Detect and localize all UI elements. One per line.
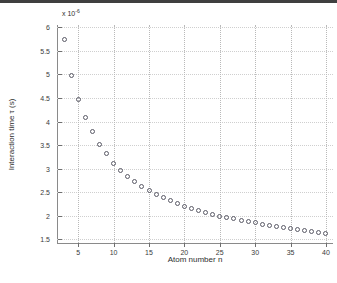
data-point	[196, 208, 201, 213]
x-axis-tick	[114, 243, 115, 247]
data-point	[69, 73, 74, 78]
data-point	[274, 224, 279, 229]
y-axis-tick-label: 6	[46, 24, 50, 31]
x-axis-tick	[326, 243, 327, 247]
y-axis-line	[57, 25, 58, 243]
data-point	[189, 206, 194, 211]
data-point	[239, 218, 244, 223]
x-axis-title: Atom number n	[57, 255, 333, 264]
gridline-horizontal	[57, 98, 333, 99]
gridline-vertical	[184, 25, 185, 243]
x-axis-tick	[149, 243, 150, 247]
gridline-vertical	[220, 25, 221, 243]
data-point	[288, 226, 293, 231]
gridline-vertical	[291, 25, 292, 243]
data-point	[139, 184, 144, 189]
y-axis-tick	[58, 216, 62, 217]
data-point	[224, 215, 229, 220]
data-point	[217, 214, 222, 219]
y-axis-title: Interaction time τ (s)	[6, 25, 18, 243]
data-point	[97, 142, 102, 147]
data-point	[316, 230, 321, 235]
data-point	[111, 161, 116, 166]
y-axis-tick-label: 4	[46, 118, 50, 125]
figure-canvas: x 10-6 5101520253035401.522.533.544.555.…	[0, 0, 337, 283]
gridline-vertical	[114, 25, 115, 243]
data-point	[210, 212, 215, 217]
data-point	[76, 97, 81, 102]
y-axis-tick	[58, 192, 62, 193]
gridline-horizontal	[57, 169, 333, 170]
data-point	[302, 228, 307, 233]
y-axis-exponent-label: x 10-6	[62, 8, 80, 17]
data-point	[154, 192, 159, 197]
y-axis-tick-label: 3.5	[40, 142, 50, 149]
gridline-horizontal	[57, 74, 333, 75]
data-point	[175, 201, 180, 206]
data-point	[323, 231, 328, 236]
gridline-horizontal	[57, 27, 333, 28]
data-point	[267, 223, 272, 228]
gridline-horizontal	[57, 216, 333, 217]
y-axis-tick	[58, 51, 62, 52]
data-point	[253, 220, 258, 225]
data-point	[118, 168, 123, 173]
x-axis-tick	[255, 243, 256, 247]
y-axis-tick-label: 1.5	[40, 236, 50, 243]
gridline-horizontal	[57, 192, 333, 193]
data-point	[125, 174, 130, 179]
data-point	[309, 229, 314, 234]
data-point	[83, 115, 88, 120]
x-axis-tick	[184, 243, 185, 247]
gridline-horizontal	[57, 239, 333, 240]
data-point	[203, 210, 208, 215]
data-point	[182, 204, 187, 209]
data-point	[168, 198, 173, 203]
y-axis-tick	[58, 122, 62, 123]
gridline-vertical	[326, 25, 327, 243]
gridline-horizontal	[57, 51, 333, 52]
y-axis-tick	[58, 74, 62, 75]
data-point	[90, 129, 95, 134]
y-axis-tick-label: 5.5	[40, 47, 50, 54]
data-point	[161, 195, 166, 200]
data-point	[260, 222, 265, 227]
data-point	[62, 37, 67, 42]
data-point	[132, 179, 137, 184]
plot-area: 5101520253035401.522.533.544.555.56	[57, 25, 333, 243]
data-point	[281, 225, 286, 230]
gridline-horizontal	[57, 122, 333, 123]
y-axis-tick-label: 3	[46, 165, 50, 172]
data-point	[295, 227, 300, 232]
x-axis-tick	[220, 243, 221, 247]
data-point	[147, 188, 152, 193]
y-axis-tick-label: 4.5	[40, 94, 50, 101]
x-axis-tick	[291, 243, 292, 247]
data-point	[246, 219, 251, 224]
exponent-power: -6	[75, 8, 79, 14]
top-border-strip	[0, 0, 337, 3]
exponent-prefix: x 10	[62, 10, 75, 17]
y-axis-tick	[58, 98, 62, 99]
gridline-vertical	[78, 25, 79, 243]
y-axis-tick-label: 5	[46, 71, 50, 78]
gridline-vertical	[255, 25, 256, 243]
y-axis-tick-label: 2	[46, 212, 50, 219]
y-axis-tick	[58, 169, 62, 170]
y-axis-tick	[58, 239, 62, 240]
data-point	[104, 151, 109, 156]
x-axis-tick	[78, 243, 79, 247]
data-point	[231, 216, 236, 221]
y-axis-tick-label: 2.5	[40, 189, 50, 196]
y-axis-tick	[58, 27, 62, 28]
y-axis-tick	[58, 145, 62, 146]
gridline-vertical	[149, 25, 150, 243]
x-axis-line	[57, 243, 333, 244]
